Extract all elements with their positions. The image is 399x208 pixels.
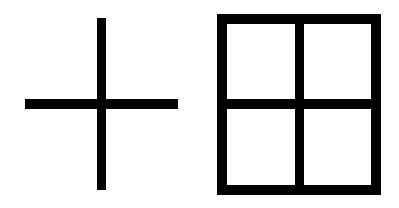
window-horizontal-mullion xyxy=(217,99,381,109)
cross-horizontal-bar xyxy=(25,99,178,109)
